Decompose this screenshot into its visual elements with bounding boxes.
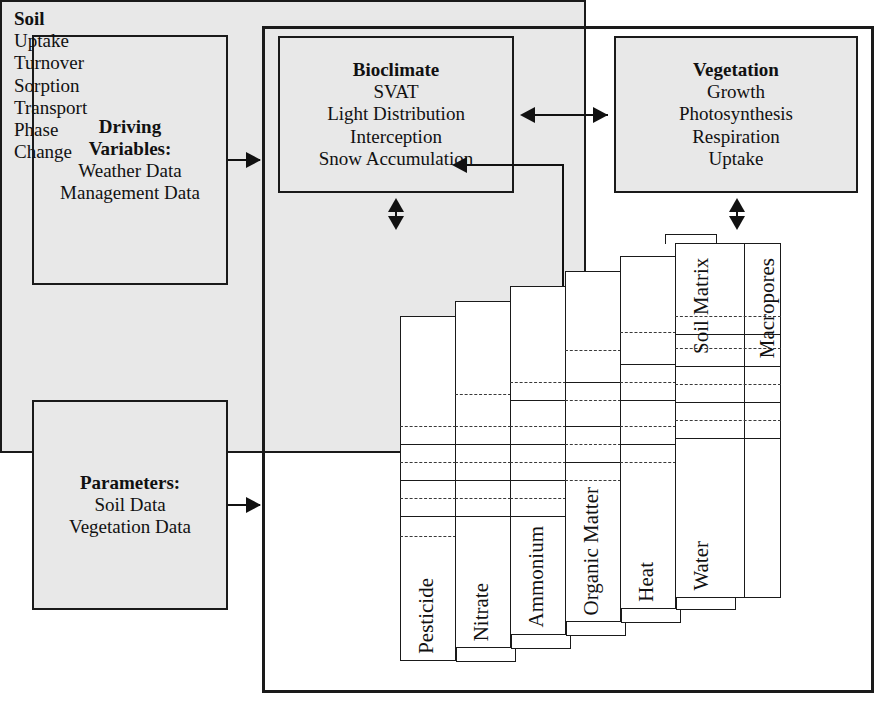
layer-card-heat: Heat	[620, 256, 676, 609]
ammonium-layer-div-4	[510, 444, 566, 445]
soil-line-4: Transport	[14, 97, 87, 119]
water-column-label-soil-matrix: Soil Matrix	[690, 258, 738, 378]
layer-tab-organic-matter	[621, 609, 681, 623]
nitrate-layer-div-6	[455, 498, 511, 499]
soil-process-list: Soil Uptake Turnover Sorption Transport …	[14, 8, 87, 164]
ammonium-layer-div-7	[510, 498, 566, 499]
organic-matter-layer-div-7	[565, 480, 621, 481]
pesticide-layer-div-3	[400, 462, 456, 463]
heat-layer-div-5	[620, 426, 676, 427]
water-column-label-macropores: Macropores	[756, 258, 778, 358]
organic-matter-layer-div-4	[565, 426, 621, 427]
nitrate-layer-div-5	[455, 480, 511, 481]
organic-matter-layer-div-6	[565, 462, 621, 463]
soil-line-6: Change	[14, 141, 87, 163]
water-layer-div-5	[675, 384, 781, 385]
organic-matter-layer-div-2	[565, 382, 621, 383]
layer-label-organic-matter: Organic Matter	[580, 487, 602, 615]
soil-title: Soil	[14, 8, 87, 30]
ammonium-layer-div-6	[510, 480, 566, 481]
layer-card-pesticide: Pesticide	[400, 316, 456, 661]
ammonium-layer-div-8	[510, 516, 566, 517]
pesticide-layer-div-5	[400, 498, 456, 499]
layer-label-heat: Heat	[635, 562, 657, 602]
layer-label-water: Water	[690, 541, 712, 591]
ammonium-layer-div-5	[510, 462, 566, 463]
nitrate-layer-div-2	[455, 426, 511, 427]
soil-line-1: Uptake	[14, 30, 87, 52]
layer-card-water: Water Soil Matrix Macropores	[675, 243, 781, 598]
layer-label-ammonium: Ammonium	[525, 526, 547, 628]
layer-card-ammonium: Ammonium	[510, 286, 566, 635]
layer-label-nitrate: Nitrate	[470, 583, 492, 641]
pesticide-layer-div-2	[400, 444, 456, 445]
organic-matter-layer-div-1	[565, 350, 621, 351]
soil-line-5: Phase	[14, 119, 87, 141]
layer-tab-heat	[676, 596, 736, 610]
heat-layer-div-1	[620, 332, 676, 333]
ammonium-layer-div-3	[510, 426, 566, 427]
organic-matter-layer-div-3	[565, 400, 621, 401]
pesticide-layer-div-4	[400, 480, 456, 481]
heat-layer-div-2	[620, 364, 676, 365]
water-layer-div-6	[675, 402, 781, 403]
pesticide-layer-div-7	[400, 536, 456, 537]
soil-line-3: Sorption	[14, 75, 87, 97]
heat-layer-div-6	[620, 444, 676, 445]
ammonium-layer-div-1	[510, 382, 566, 383]
water-layer-div-7	[675, 420, 781, 421]
pesticide-layer-div-1	[400, 426, 456, 427]
pesticide-layer-div-6	[400, 516, 456, 517]
diagram-canvas: Driving Variables: Weather Data Manageme…	[0, 0, 893, 718]
nitrate-layer-div-3	[455, 444, 511, 445]
soil-line-2: Turnover	[14, 52, 87, 74]
layer-card-organic-matter: Organic Matter	[565, 271, 621, 622]
ammonium-layer-div-2	[510, 400, 566, 401]
organic-matter-layer-div-5	[565, 444, 621, 445]
heat-layer-div-4	[620, 400, 676, 401]
nitrate-layer-div-1	[455, 394, 511, 395]
layer-tab-nitrate	[511, 635, 571, 649]
nitrate-layer-div-7	[455, 516, 511, 517]
heat-layer-div-3	[620, 382, 676, 383]
water-layer-div-8	[675, 438, 781, 439]
nitrate-layer-div-4	[455, 462, 511, 463]
soil-state-variable-stack: Pesticide Nitrate Ammonium	[0, 0, 893, 718]
layer-label-pesticide: Pesticide	[415, 578, 437, 654]
layer-tab-pesticide	[456, 648, 516, 662]
layer-card-nitrate: Nitrate	[455, 301, 511, 648]
heat-layer-div-7	[620, 462, 676, 463]
layer-tab-ammonium	[566, 622, 626, 636]
